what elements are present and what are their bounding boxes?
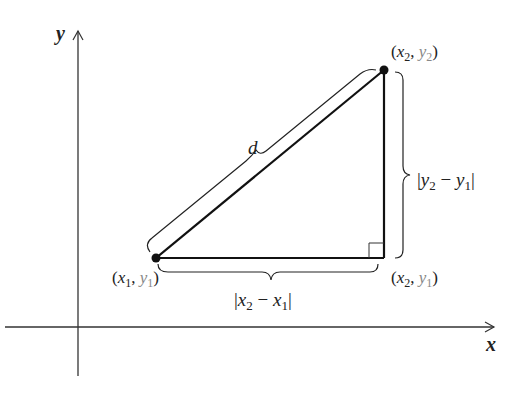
right-angle-marker [369, 243, 384, 258]
svg-text:|y2 − y1|: |y2 − y1| [417, 169, 475, 193]
hypotenuse-label: d [248, 137, 258, 158]
svg-text:(x2, y2): (x2, y2) [391, 42, 438, 64]
point-p1 [152, 254, 161, 263]
svg-text:|x2 − x1|: |x2 − x1| [234, 289, 292, 313]
svg-text:(x1, y1): (x1, y1) [112, 268, 159, 290]
y-axis-label: y [54, 22, 65, 45]
horizontal-leg-brace [158, 264, 378, 280]
distance-diagram: y x d (x1, y1) (x2, y2) (x2, y1) |x2 − x… [0, 0, 517, 393]
vertical-leg-label: |y2 − y1| [417, 169, 475, 193]
vertical-leg-brace [395, 72, 410, 258]
point-p3-label: (x2, y1) [391, 268, 438, 290]
horizontal-leg-label: |x2 − x1| [234, 289, 292, 313]
hypotenuse-brace [147, 70, 376, 253]
x-axis-label: x [485, 333, 496, 355]
point-p1-label: (x1, y1) [112, 268, 159, 290]
svg-text:(x2, y1): (x2, y1) [391, 268, 438, 290]
hypotenuse-line [156, 70, 384, 258]
point-p2-label: (x2, y2) [391, 42, 438, 64]
point-p2 [380, 66, 389, 75]
